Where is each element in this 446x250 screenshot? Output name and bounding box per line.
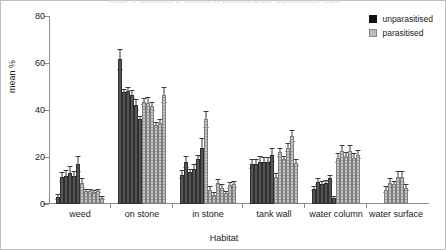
x-category-label: water surface: [367, 207, 425, 223]
x-axis-category-labels: weedon stonein stonetank wallwater colum…: [49, 207, 429, 223]
chart-title: mean % occupancy of habitats by parasiti…: [1, 0, 446, 4]
bar-parasitised: [404, 188, 408, 204]
bar-parasitised: [100, 198, 104, 204]
chart-figure: mean % occupancy of habitats by parasiti…: [0, 0, 446, 250]
bar-parasitised: [232, 184, 236, 204]
bar-slot: [162, 16, 166, 204]
x-category-label: in stone: [173, 207, 243, 223]
bar-slot: [100, 16, 104, 204]
x-category-label: water column: [305, 207, 367, 223]
y-tick-label: 40: [35, 105, 45, 115]
y-tick-label: 80: [35, 11, 45, 21]
bar-group-bars: [180, 16, 236, 204]
bar-parasitised: [294, 163, 298, 204]
x-category-label: on stone: [111, 207, 173, 223]
bar-group-bars: [118, 16, 166, 204]
bar-slot: [356, 16, 360, 204]
bar-group: [49, 16, 111, 204]
x-category-label: tank wall: [243, 207, 305, 223]
bar-group: [173, 16, 243, 204]
bar-group-bars: [56, 16, 104, 204]
bar-slot: [232, 16, 236, 204]
y-tick-label: 20: [35, 152, 45, 162]
x-axis-title: Habitat: [1, 233, 446, 243]
y-axis-title: mean %: [7, 60, 17, 93]
bar-parasitised: [162, 95, 166, 204]
bar-group: [305, 16, 367, 204]
bar-groups: [49, 16, 429, 204]
bar-group: [111, 16, 173, 204]
bar-slot: [404, 16, 408, 204]
y-tick-label: 0: [40, 199, 45, 209]
y-tick-label: 60: [35, 58, 45, 68]
x-category-label: weed: [49, 207, 111, 223]
plot-area: 020406080: [49, 16, 429, 204]
bar-group: [367, 16, 425, 204]
bar-group-bars: [384, 16, 408, 204]
bar-group-bars: [312, 16, 360, 204]
bar-slot: [294, 16, 298, 204]
bar-parasitised: [356, 155, 360, 204]
bar-group: [243, 16, 305, 204]
bar-group-bars: [250, 16, 298, 204]
